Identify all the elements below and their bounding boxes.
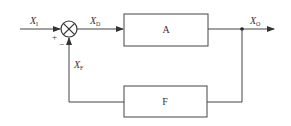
minus-sign: − bbox=[59, 39, 64, 49]
feedback-block-diagram: XI + − XD A XO F XF bbox=[0, 0, 291, 126]
feedback-signal-label: XF bbox=[73, 59, 84, 71]
feedback-path-right bbox=[207, 29, 242, 102]
feedback-block-label: F bbox=[162, 96, 168, 107]
forward-block-label: A bbox=[162, 24, 170, 35]
summing-junction bbox=[61, 21, 77, 37]
plus-sign: + bbox=[52, 32, 57, 42]
difference-signal-label: XD bbox=[89, 15, 101, 27]
input-signal-label: XI bbox=[29, 15, 38, 27]
feedback-path-left bbox=[69, 38, 124, 102]
output-signal-label: XO bbox=[249, 15, 261, 27]
